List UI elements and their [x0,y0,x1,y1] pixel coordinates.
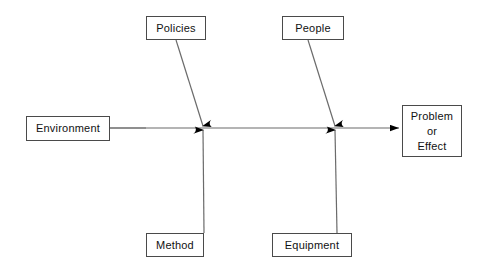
node-people[interactable]: People [282,16,344,40]
effect-label-line-3: Effect [417,139,446,154]
effect-label-line-2: or [427,124,437,139]
node-environment-label: Environment [36,122,100,135]
effect-label-line-1: Problem [411,109,453,124]
node-people-label: People [295,22,330,35]
node-method[interactable]: Method [146,233,204,257]
node-policies[interactable]: Policies [146,16,206,40]
node-equipment[interactable]: Equipment [272,233,352,257]
node-problem-or-effect[interactable]: Problem or Effect [402,105,462,157]
bone-policies [176,40,203,126]
bone-people [308,40,335,126]
node-method-label: Method [156,239,194,252]
node-environment[interactable]: Environment [26,116,110,141]
node-equipment-label: Equipment [285,239,339,252]
bone-equipment [335,130,337,233]
node-policies-label: Policies [156,22,196,35]
fishbone-diagram: Policies People Method Equipment Environ… [0,0,480,271]
bone-method [203,130,204,233]
